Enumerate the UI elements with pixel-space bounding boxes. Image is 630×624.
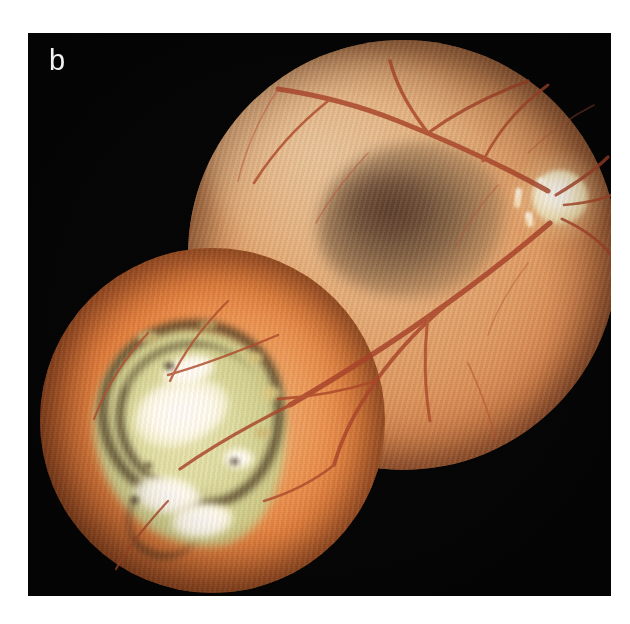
fundus-photograph-plate: b	[28, 33, 611, 596]
fundus-field-peripheral-lesion	[40, 248, 385, 593]
peripheral-striae-texture	[40, 248, 385, 593]
figure-root: b	[0, 0, 630, 624]
panel-label: b	[49, 46, 66, 75]
